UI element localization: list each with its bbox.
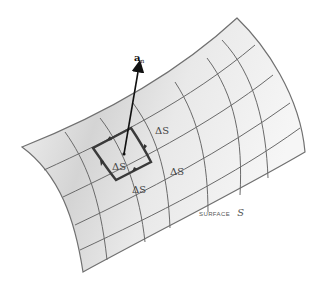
delta-s-label-lower: ΔS: [132, 184, 146, 195]
surface-diagram: an ΔS ΔS ΔS ΔS SURFACE S: [0, 0, 322, 285]
delta-s-label-upper: ΔS: [155, 125, 169, 136]
surface-body: [22, 18, 305, 272]
delta-s-label-right: ΔS: [170, 166, 184, 177]
delta-s-label-center: ΔS: [112, 161, 126, 172]
normal-vector-label: an: [134, 52, 144, 64]
